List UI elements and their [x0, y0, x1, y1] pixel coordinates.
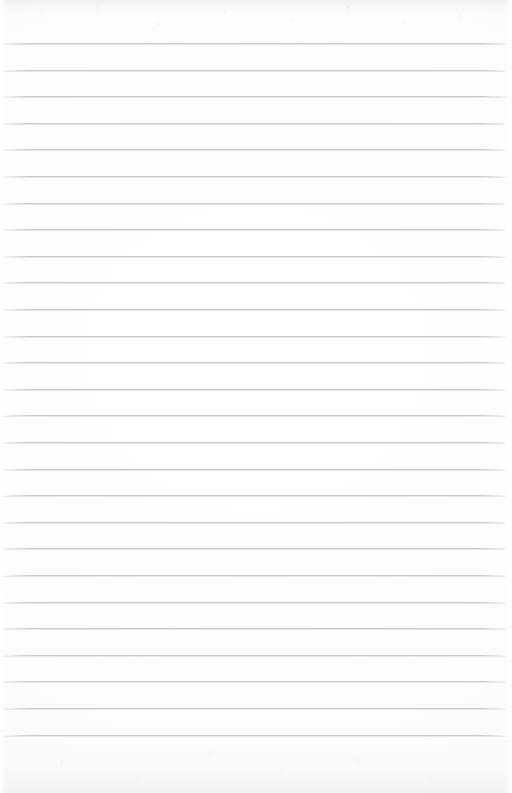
- ruled-line: [3, 309, 506, 310]
- lined-paper-page: [0, 0, 512, 793]
- ruled-line: [3, 389, 506, 390]
- ruled-line: [3, 96, 506, 97]
- ruled-line: [3, 149, 506, 150]
- bottom-margin-area: [0, 735, 512, 793]
- ruled-line: [3, 203, 506, 204]
- ruled-line: [3, 229, 506, 230]
- ruled-line: [3, 469, 506, 470]
- ruled-lines-layer: [0, 0, 512, 793]
- ruled-line: [3, 602, 506, 603]
- ruled-line: [3, 655, 506, 656]
- ruled-line: [3, 442, 506, 443]
- ruled-line: [3, 708, 506, 709]
- ruled-line: [3, 628, 506, 629]
- ruled-line: [3, 522, 506, 523]
- ruled-line: [3, 43, 506, 44]
- top-margin-area: [0, 0, 512, 43]
- ruled-line: [3, 681, 506, 682]
- ruled-line: [3, 362, 506, 363]
- ruled-line: [3, 176, 506, 177]
- ruled-line: [3, 70, 506, 71]
- ruled-line: [3, 282, 506, 283]
- ruled-line: [3, 495, 506, 496]
- ruled-line: [3, 548, 506, 549]
- ruled-line: [3, 123, 506, 124]
- ruled-line: [3, 256, 506, 257]
- ruled-line: [3, 336, 506, 337]
- ruled-line: [3, 575, 506, 576]
- ruled-line: [3, 415, 506, 416]
